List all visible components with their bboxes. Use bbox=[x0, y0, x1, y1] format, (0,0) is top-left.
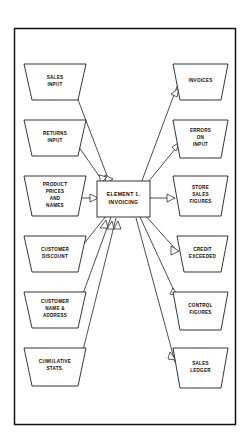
store-label-line: NAME & bbox=[45, 306, 65, 311]
store-store-sales-figures[interactable]: STORE SALES FIGURES bbox=[173, 176, 228, 216]
process-element-1-invoicing[interactable]: ELEMENT 1. INVOICING bbox=[97, 181, 150, 217]
store-label-line: CONTROL bbox=[188, 303, 212, 308]
data-flow-diagram: SALES INPUT RETURNS INPUT PRODUCT PRICES… bbox=[0, 0, 250, 447]
store-label-line: LEDGER bbox=[190, 368, 211, 373]
store-label-line: CUSTOMER bbox=[41, 299, 70, 304]
store-label-line: DISCOUNT bbox=[42, 254, 68, 259]
store-returns-input[interactable]: RETURNS INPUT bbox=[24, 120, 86, 156]
store-label-line: ADDRESS bbox=[43, 313, 67, 318]
arrowhead-credit-exceeded bbox=[171, 246, 179, 255]
store-credit-exceeded[interactable]: CREDIT EXCEEDED bbox=[177, 236, 228, 272]
store-customer-discount[interactable]: CUSTOMER DISCOUNT bbox=[24, 236, 86, 272]
flow-process-to-invoices bbox=[140, 84, 178, 186]
store-label-line: INPUT bbox=[47, 138, 62, 143]
store-errors-on-input[interactable]: ERRORS ON INPUT bbox=[173, 120, 228, 158]
store-label-line: STORE bbox=[192, 185, 209, 190]
store-product-prices-and-names[interactable]: PRODUCT PRICES AND NAMES bbox=[24, 176, 86, 216]
flow-process-to-control-figures bbox=[140, 217, 177, 297]
store-control-figures[interactable]: CONTROL FIGURES bbox=[173, 292, 228, 330]
store-label-line: SALES bbox=[192, 192, 209, 197]
store-label-line: FIGURES bbox=[189, 310, 211, 315]
store-sales-input[interactable]: SALES INPUT bbox=[24, 64, 86, 100]
store-customer-name-address[interactable]: CUSTOMER NAME & ADDRESS bbox=[24, 292, 86, 328]
store-sales-ledger[interactable]: SALES LEDGER bbox=[173, 348, 228, 388]
flow-process-to-sales-ledger bbox=[136, 218, 175, 362]
store-label-line: CREDIT bbox=[193, 247, 212, 252]
store-label-line: CUMULATIVE bbox=[39, 359, 71, 364]
store-label-line: PRICES bbox=[46, 189, 65, 194]
arrowhead-customer-discount bbox=[100, 220, 108, 228]
store-label-line: CUSTOMER bbox=[41, 247, 70, 252]
flow-arrowheads bbox=[90, 88, 180, 360]
arrowhead-store-sales bbox=[167, 194, 175, 202]
flow-connectors bbox=[72, 84, 180, 366]
store-label-line: ON bbox=[197, 135, 205, 140]
store-label-line: RETURNS bbox=[43, 131, 67, 136]
store-label-line: INPUT bbox=[47, 82, 62, 87]
store-label-line: EXCEEDED bbox=[189, 254, 217, 259]
store-cumulative-stats[interactable]: CUMULATIVE STATS. bbox=[24, 348, 86, 386]
store-label-line: SALES bbox=[47, 75, 64, 80]
process-label-line: INVOICING bbox=[109, 199, 139, 205]
store-label-line: INVOICES bbox=[189, 78, 213, 83]
process-label-line: ELEMENT 1. bbox=[107, 191, 141, 197]
store-label-line: PRODUCT bbox=[43, 182, 67, 187]
store-invoices[interactable]: INVOICES bbox=[173, 64, 228, 100]
store-label-line: AND bbox=[50, 196, 61, 201]
flow-process-to-credit-exceeded bbox=[144, 214, 178, 252]
diagram-canvas: SALES INPUT RETURNS INPUT PRODUCT PRICES… bbox=[0, 0, 250, 447]
store-label-line: SALES bbox=[192, 361, 209, 366]
store-label-line: INPUT bbox=[193, 142, 208, 147]
store-label-line: ERRORS bbox=[190, 128, 211, 133]
store-label-line: STATS. bbox=[46, 366, 63, 371]
store-label-line: NAMES bbox=[46, 203, 64, 208]
store-label-line: FIGURES bbox=[189, 199, 211, 204]
